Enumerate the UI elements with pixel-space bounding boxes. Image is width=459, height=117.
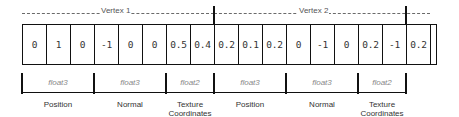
bracket-tick: [213, 73, 215, 94]
vertex-divider-2: [405, 6, 407, 25]
buffer-cell: -1: [94, 25, 118, 64]
attribute-name: Normal: [94, 100, 166, 109]
vertex-1-label: Vertex 1: [100, 6, 131, 16]
bracket-tick: [93, 73, 95, 94]
attribute-bracket: float3: [214, 73, 286, 93]
attribute-type: float3: [240, 78, 260, 87]
buffer-cell: 0.2: [358, 25, 382, 64]
buffer-cell: 0: [118, 25, 142, 64]
attribute-name: Position: [22, 100, 94, 109]
bracket-tick: [21, 73, 23, 94]
attribute-bracket: float2: [166, 73, 214, 93]
buffer-cell: 0: [22, 25, 46, 64]
buffer-cell: -1: [382, 25, 406, 64]
bracket-tick: [165, 73, 167, 94]
buffer-cell-partial: [430, 25, 437, 64]
vertex-2-label: Vertex 2: [298, 6, 329, 16]
buffer-cell: 0: [334, 25, 358, 64]
attribute-type: float3: [312, 78, 332, 87]
buffer-cell: 0: [70, 25, 94, 64]
attribute-type: float3: [48, 78, 68, 87]
buffer-cell: 0.4: [190, 25, 214, 64]
bracket-tick: [405, 73, 407, 94]
buffer-cell: 0.2: [214, 25, 238, 64]
vertex-buffer-cells: 0 1 0 -1 0 0 0.5 0.4 0.2 0.1 0.2 0 -1 0 …: [22, 24, 437, 65]
buffer-cell: -1: [310, 25, 334, 64]
buffer-cell: 0.1: [238, 25, 262, 64]
buffer-cell: 0.5: [166, 25, 190, 64]
buffer-cell: 1: [46, 25, 70, 64]
buffer-cell: 0: [142, 25, 166, 64]
attribute-name: Normal: [286, 100, 358, 109]
bracket-tick: [285, 73, 287, 94]
vertex-divider-1: [213, 6, 215, 25]
bracket-tick: [357, 73, 359, 94]
buffer-cell: 0.2: [262, 25, 286, 64]
attribute-name: Texture Coordinates: [162, 100, 218, 117]
attribute-type: float2: [372, 78, 392, 87]
attribute-type: float2: [180, 78, 200, 87]
attribute-bracket: float3: [286, 73, 358, 93]
attribute-type: float3: [120, 78, 140, 87]
buffer-cell: 0: [286, 25, 310, 64]
attribute-bracket: float2: [358, 73, 406, 93]
attribute-name: Position: [214, 100, 286, 109]
attribute-bracket: float3: [94, 73, 166, 93]
buffer-cell: 0.2: [406, 25, 430, 64]
attribute-bracket: float3: [22, 73, 94, 93]
attribute-name: Texture Coordinates: [354, 100, 410, 117]
